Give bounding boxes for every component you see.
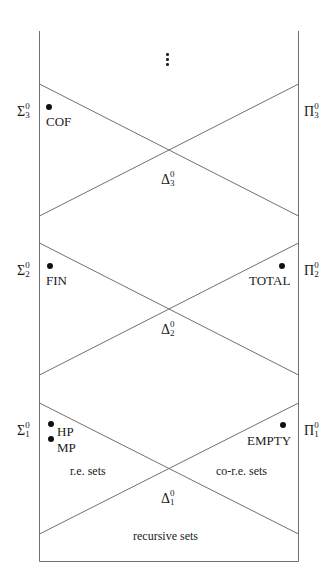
sigma-1-label: Σ01 [17, 424, 32, 438]
empty-label: EMPTY [247, 434, 291, 447]
sigma-symbol: Σ [17, 423, 25, 438]
pi-3-label: Π03 [304, 105, 321, 119]
subscript: 3 [25, 111, 30, 120]
total-dot-icon [279, 263, 285, 269]
subscript: 1 [25, 430, 30, 439]
sigma-symbol: Σ [17, 104, 25, 119]
mp-dot-icon [48, 436, 54, 442]
pi-1-label: Π01 [304, 424, 321, 438]
subscript: 1 [170, 498, 175, 507]
sigma-2-label: Σ02 [17, 264, 32, 278]
fin-label: FIN [46, 274, 67, 287]
hp-label: HP [57, 425, 74, 438]
delta-symbol: Δ [161, 322, 170, 337]
subscript: 3 [314, 111, 319, 120]
pi-2-label: Π02 [304, 264, 321, 278]
subscript: 1 [314, 430, 319, 439]
sigma-symbol: Σ [17, 263, 25, 278]
pi-symbol: Π [304, 263, 314, 278]
delta-1-label: Δ01 [161, 492, 177, 506]
subscript: 3 [170, 179, 175, 188]
cof-dot-icon [46, 104, 52, 110]
delta-3-label: Δ03 [161, 173, 177, 187]
recursive-sets-label: recursive sets [133, 530, 198, 542]
total-label: TOTAL [249, 274, 290, 287]
empty-dot-icon [280, 422, 286, 428]
mp-label: MP [57, 441, 76, 454]
hp-dot-icon [48, 421, 54, 427]
subscript: 2 [25, 270, 30, 279]
subscript: 2 [314, 270, 319, 279]
pi-symbol: Π [304, 104, 314, 119]
co-re-sets-label: co-r.e. sets [216, 465, 267, 477]
subscript: 2 [170, 329, 175, 338]
delta-2-label: Δ02 [161, 323, 177, 337]
delta-symbol: Δ [161, 491, 170, 506]
re-sets-label: r.e. sets [70, 465, 106, 477]
vertical-ellipsis-icon [166, 53, 170, 68]
cof-label: COF [46, 115, 71, 128]
fin-dot-icon [47, 263, 53, 269]
delta-symbol: Δ [161, 172, 170, 187]
pi-symbol: Π [304, 423, 314, 438]
sigma-3-label: Σ03 [17, 105, 32, 119]
